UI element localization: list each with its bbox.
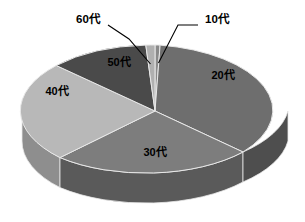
pie-chart-canvas: 60代 10代 50代 40代 20代 30代	[0, 0, 305, 222]
pie-label-20: 20代	[211, 68, 234, 81]
pie-label-30: 30代	[143, 145, 166, 158]
pie-chart-figure: 60代 10代 50代 40代 20代 30代	[0, 0, 305, 222]
pie-label-60: 60代	[76, 12, 101, 25]
pie-label-50: 50代	[107, 55, 130, 68]
pie-label-10: 10代	[205, 12, 230, 25]
pie-label-40: 40代	[45, 84, 68, 97]
